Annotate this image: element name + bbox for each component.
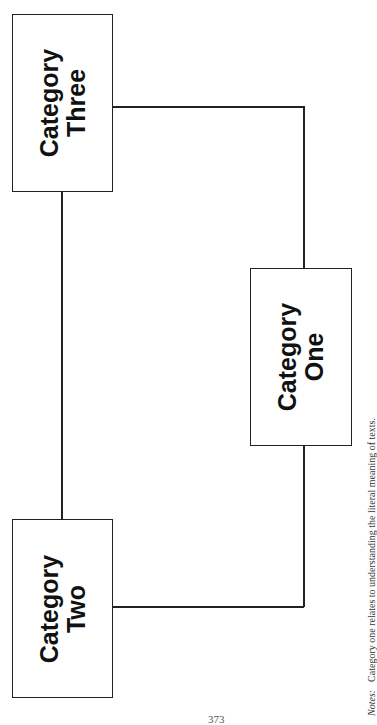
edge-three-two: [61, 192, 63, 519]
edge-three-one-vertical: [303, 106, 305, 268]
edge-two-one-vertical: [303, 446, 305, 607]
node-label-line2: One: [301, 303, 328, 411]
node-category-two: Category Two: [12, 519, 113, 698]
page-number: 373: [208, 713, 225, 725]
node-label: Category One: [274, 303, 328, 411]
edge-three-one-horizontal: [113, 106, 304, 108]
node-label: Category Two: [36, 554, 90, 662]
notes-label: Notes:: [366, 690, 377, 716]
figure-notes: Notes:Category one relates to understand…: [366, 418, 377, 716]
node-label-line2: Three: [63, 49, 90, 157]
node-label-line1: Category: [274, 303, 301, 411]
node-category-one: Category One: [250, 268, 352, 446]
edge-two-one-horizontal: [113, 606, 304, 608]
notes-text: Category one relates to understanding th…: [366, 418, 377, 682]
node-label-line2: Two: [63, 554, 90, 662]
node-category-three: Category Three: [12, 14, 113, 192]
node-label: Category Three: [36, 49, 90, 157]
node-label-line1: Category: [36, 554, 63, 662]
node-label-line1: Category: [36, 49, 63, 157]
